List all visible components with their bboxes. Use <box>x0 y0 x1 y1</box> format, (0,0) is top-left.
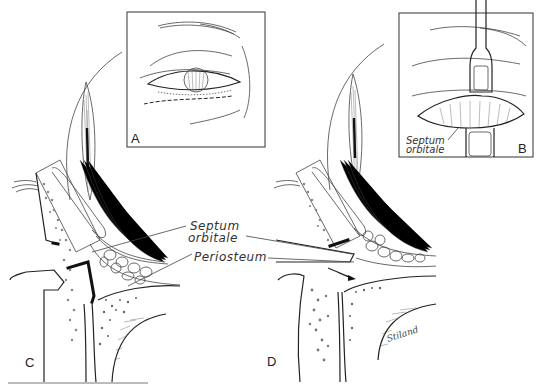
caption-strip-fragment <box>8 382 148 384</box>
panel-label-a: A <box>131 131 140 146</box>
panel-b-inset: Septum orbitale <box>399 0 533 157</box>
panel-label-b: B <box>518 141 527 156</box>
panel-label-c: C <box>25 355 34 370</box>
figure-canvas: C A <box>0 0 550 386</box>
septum-orbitale-label-line2: orbitale <box>188 231 238 245</box>
artist-signature: Stiland <box>386 324 420 344</box>
periosteum-label: Periosteum <box>194 250 267 264</box>
panel-b-septum-label-line2: orbitale <box>406 144 444 155</box>
panel-label-d: D <box>267 354 276 369</box>
panel-a-inset <box>127 12 265 147</box>
